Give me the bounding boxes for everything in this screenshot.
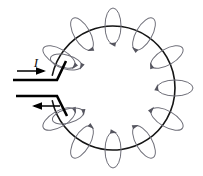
figure-container: I	[0, 0, 203, 176]
current-loop-diagram: I	[0, 0, 203, 176]
current-label: I	[33, 55, 39, 70]
